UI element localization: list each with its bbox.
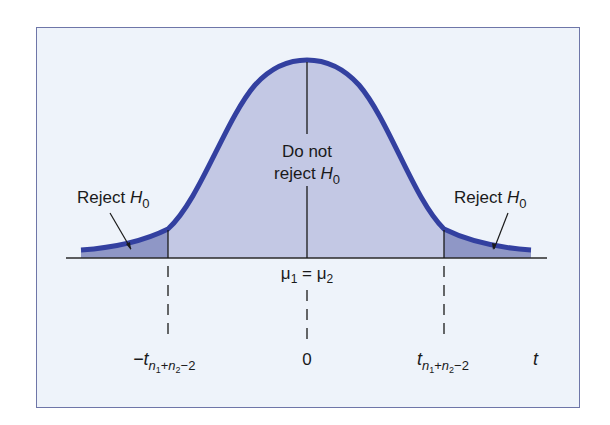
axis-variable-label: t — [533, 349, 539, 369]
reject-left-label: Reject H0 — [77, 188, 149, 211]
right-arrow — [494, 213, 508, 249]
zero-label: 0 — [302, 350, 311, 369]
right-critical-label: tn1+n2−2 — [417, 349, 469, 375]
reject-right-label: Reject H0 — [454, 188, 526, 211]
t-distribution-diagram: Reject H0 Reject H0 Do not reject H0 μ1 … — [0, 0, 610, 425]
left-critical-label: −tn1+n2−2 — [133, 349, 195, 375]
do-not-reject-line1: Do not — [282, 142, 332, 161]
mean-equality-label: μ1 = μ2 — [281, 264, 334, 286]
